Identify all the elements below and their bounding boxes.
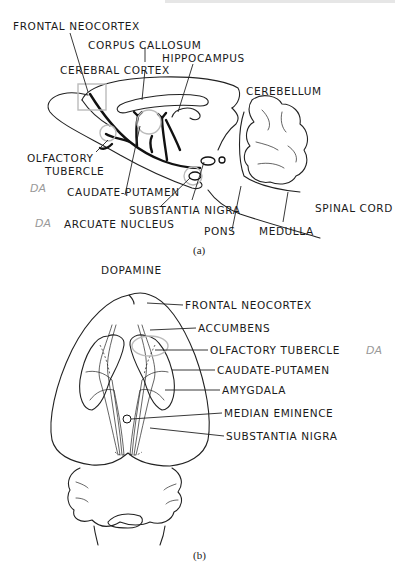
label-corpus-callosum: CORPUS CALLOSUM [88,39,201,51]
pencil-annotation-ellipse [132,336,168,356]
label-hippocampus: HIPPOCAMPUS [162,52,245,64]
vta-nucleus [219,157,225,163]
vermis-shape [108,514,142,528]
caption-b: (b) [193,549,206,562]
label-cerebral-cortex: CEREBRAL CORTEX [60,64,170,76]
faded-header [165,0,395,3]
label-substantia-nigra: SUBSTANTIA NIGRA [129,204,241,216]
brainstem-dorsal [218,108,238,150]
panel-a-sagittal-brain: FRONTAL NEOCORTEX CORPUS CALLOSUM HIPPOC… [13,20,393,257]
label-frontal-neocortex-b: FRONTAL NEOCORTEX [185,299,312,311]
caption-a: (a) [193,244,206,257]
label-spinal-cord: SPINAL CORD [315,202,393,214]
hippocampus-shape [172,108,200,119]
label-cerebellum: CEREBELLUM [246,85,322,97]
spinal-left [94,526,98,545]
label-arcuate-nucleus: ARCUATE NUCLEUS [64,218,174,230]
spinal-right [160,526,165,545]
dopamine-pathway-figure: FRONTAL NEOCORTEX CORPUS CALLOSUM HIPPOC… [0,0,401,563]
hindbrain-outline [68,468,182,526]
handwritten-da-1: DA [30,182,46,195]
label-medulla: MEDULLA [259,225,314,237]
label-caudate-putamen: CAUDATE-PUTAMEN [67,186,180,198]
median-eminence-shape [123,415,131,423]
label-olfactory-tubercle-b: OLFACTORY TUBERCLE [210,344,340,356]
panel-b-title: DOPAMINE [101,264,162,276]
pencil-annotation-circle [137,110,161,134]
panel-b-horizontal-brain: DOPAMINE [51,264,382,562]
label-substantia-nigra-b: SUBSTANTIA NIGRA [226,430,338,442]
label-amygdala: AMYGDALA [222,384,286,396]
handwritten-da-3: DA [366,344,382,357]
cerebellum-shape [240,96,308,192]
label-frontal-neocortex: FRONTAL NEOCORTEX [13,20,140,32]
label-pons: PONS [204,225,236,237]
handwritten-da-2: DA [35,217,51,230]
left-striatum [80,335,124,410]
dopamine-fibers-dorsal [86,325,168,455]
label-olfactory-tubercle-line1: OLFACTORY [27,152,94,164]
pencil-annotation-circle [100,125,116,141]
label-olfactory-tubercle-line2: TUBERCLE [44,165,104,177]
label-accumbens: ACCUMBENS [198,322,270,334]
cerebrum-dorsal-outline [51,293,209,466]
label-caudate-putamen-b: CAUDATE-PUTAMEN [217,364,330,376]
midline-notch [129,295,134,304]
label-median-eminence: MEDIAN EMINENCE [224,407,333,419]
